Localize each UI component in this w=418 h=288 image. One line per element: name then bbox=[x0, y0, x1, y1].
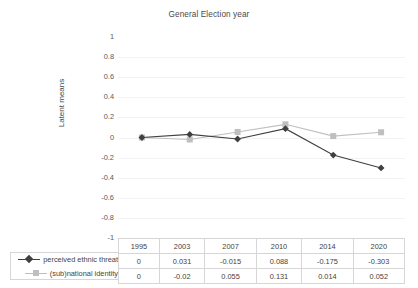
series-marker bbox=[378, 129, 384, 135]
square-marker-icon bbox=[33, 270, 39, 276]
y-axis-tick-label: -0.4 bbox=[74, 174, 114, 182]
table-cell: 0.131 bbox=[256, 269, 302, 284]
legend-item[interactable]: perceived ethnic threat bbox=[10, 252, 118, 266]
table-header-row: 199520032007201020142020 bbox=[119, 239, 405, 254]
table-header-cell: 2010 bbox=[256, 239, 302, 254]
table-header-cell: 2014 bbox=[302, 239, 353, 254]
table-header-cell: 2007 bbox=[205, 239, 256, 254]
table-header-cell: 1995 bbox=[119, 239, 160, 254]
table-cell: -0.175 bbox=[302, 254, 353, 269]
y-axis-tick-label: 0.4 bbox=[74, 93, 114, 101]
series-layer bbox=[118, 37, 405, 238]
table-header-cell: 2003 bbox=[159, 239, 205, 254]
table-cell: 0.031 bbox=[159, 254, 205, 269]
data-table-body: 19952003200720102014202000.031-0.0150.08… bbox=[119, 239, 405, 284]
legend-item[interactable]: (sub)national identity bbox=[10, 266, 118, 280]
table-cell: -0.02 bbox=[159, 269, 205, 284]
legend-label: perceived ethnic threat bbox=[43, 255, 118, 264]
table-cell: -0.303 bbox=[353, 254, 404, 269]
legend-key-icon bbox=[25, 268, 47, 278]
chart-title: General Election year bbox=[0, 10, 418, 19]
y-axis-tick-label: 0.8 bbox=[74, 53, 114, 61]
series-marker bbox=[330, 152, 337, 159]
y-axis-tick-label: 0 bbox=[74, 134, 114, 142]
chart-legend: perceived ethnic threat(sub)national ide… bbox=[10, 252, 118, 282]
series-marker bbox=[378, 165, 385, 172]
table-cell: 0 bbox=[119, 269, 160, 284]
y-axis-tick-label: 1 bbox=[74, 33, 114, 41]
table-header-cell: 2020 bbox=[353, 239, 404, 254]
table-cell: 0.052 bbox=[353, 269, 404, 284]
y-axis-tick-label: -0.6 bbox=[74, 194, 114, 202]
table-cell: -0.015 bbox=[205, 254, 256, 269]
y-axis-tick-labels: 10.80.60.40.20-0.2-0.4-0.6-0.8-1 bbox=[72, 37, 114, 238]
diamond-marker-icon bbox=[25, 255, 33, 263]
chart-container: General Election year Latent means 10.80… bbox=[0, 0, 418, 288]
y-axis-tick-label: 0.6 bbox=[74, 73, 114, 81]
table-row: 00.031-0.0150.088-0.175-0.303 bbox=[119, 254, 405, 269]
y-axis-tick-label: -1 bbox=[74, 234, 114, 242]
series-line bbox=[142, 129, 381, 168]
y-axis-tick-label: 0.2 bbox=[74, 113, 114, 121]
y-axis-tick-label: -0.2 bbox=[74, 154, 114, 162]
series-marker bbox=[235, 129, 241, 135]
table-row: 0-0.020.0550.1310.0140.052 bbox=[119, 269, 405, 284]
table-cell: 0 bbox=[119, 254, 160, 269]
legend-key-icon bbox=[18, 254, 40, 264]
plot-area bbox=[118, 37, 405, 238]
y-axis-tick-label: -0.8 bbox=[74, 214, 114, 222]
series-marker bbox=[330, 133, 336, 139]
series-marker bbox=[234, 136, 241, 143]
y-axis-title: Latent means bbox=[57, 63, 71, 143]
series-line bbox=[142, 124, 381, 139]
data-table: 19952003200720102014202000.031-0.0150.08… bbox=[118, 238, 405, 284]
table-cell: 0.014 bbox=[302, 269, 353, 284]
table-cell: 0.088 bbox=[256, 254, 302, 269]
legend-label: (sub)national identity bbox=[50, 269, 118, 278]
table-cell: 0.055 bbox=[205, 269, 256, 284]
